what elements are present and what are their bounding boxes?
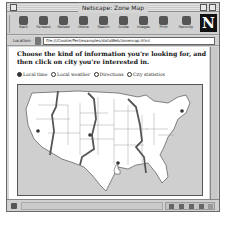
forward-button[interactable]: Forward	[34, 15, 53, 34]
status-text	[21, 202, 163, 210]
forward-label: Forward	[34, 25, 53, 30]
city-marker-mountain[interactable]	[88, 133, 92, 137]
guide-label: Guide	[114, 25, 133, 30]
location-label: Location:	[13, 38, 31, 44]
print-button[interactable]: Print	[154, 15, 173, 34]
radio-label: City statistics	[133, 72, 165, 77]
home-label: Home	[74, 25, 93, 30]
us-zone-map[interactable]	[17, 84, 203, 196]
reload-label: Reload	[54, 25, 73, 30]
radio-local-weather[interactable]: Local weather	[51, 71, 90, 78]
city-marker-east[interactable]	[180, 109, 184, 113]
images-label: Images	[134, 25, 153, 30]
radio-unchecked-icon[interactable]	[94, 72, 99, 77]
radio-checked-icon[interactable]	[17, 72, 22, 77]
home-button[interactable]: Home	[74, 15, 93, 34]
search-label: Search	[94, 25, 113, 30]
close-box-icon[interactable]	[10, 4, 17, 11]
page-proxy-icon[interactable]	[35, 37, 41, 45]
news-icon[interactable]	[189, 204, 194, 209]
navigation-toolbar: Back Forward Reload Home Search Guide Im…	[7, 13, 219, 35]
title-bar[interactable]: Netscape: Zone Map	[7, 3, 219, 12]
zoom-box-icon[interactable]	[200, 4, 207, 11]
radio-unchecked-icon[interactable]	[127, 72, 132, 77]
composer-icon[interactable]	[199, 204, 204, 209]
back-button[interactable]: Back	[14, 15, 33, 34]
security-key-icon[interactable]	[11, 203, 17, 209]
instruction-text: Choose the kind of information you're lo…	[17, 50, 207, 66]
radio-label: Local weather	[57, 72, 90, 77]
radio-directions[interactable]: Directions	[94, 71, 124, 78]
security-label: Security	[174, 25, 198, 30]
location-bar: Location: file:///Cookie/Perl/examples/d…	[7, 36, 219, 46]
images-button[interactable]: Images	[134, 15, 153, 34]
security-lock-icon	[182, 16, 191, 25]
print-label: Print	[154, 25, 173, 30]
radio-unchecked-icon[interactable]	[51, 72, 56, 77]
navigator-icon[interactable]	[169, 204, 174, 209]
search-button[interactable]: Search	[94, 15, 113, 34]
radio-label: Directions	[100, 72, 124, 77]
search-icon	[99, 16, 108, 25]
radio-label: Local time	[23, 72, 47, 77]
guide-button[interactable]: Guide	[114, 15, 133, 34]
mail-icon[interactable]	[179, 204, 184, 209]
url-input[interactable]: file:///Cookie/Perl/examples/dataWeb/zon…	[43, 37, 215, 45]
print-icon	[159, 16, 168, 25]
component-bar	[165, 202, 215, 210]
status-bar	[7, 199, 219, 211]
city-marker-central[interactable]	[116, 161, 120, 165]
reload-button[interactable]: Reload	[54, 15, 73, 34]
collapse-box-icon[interactable]	[209, 4, 216, 11]
info-type-radio-group: Local time Local weather Directions City…	[17, 71, 207, 79]
forward-arrow-icon	[39, 16, 48, 25]
browser-window: Netscape: Zone Map Back Forward Reload H…	[6, 2, 220, 212]
radio-city-statistics[interactable]: City statistics	[127, 71, 165, 78]
city-marker-west[interactable]	[36, 129, 40, 133]
resize-grip-icon[interactable]	[208, 204, 213, 209]
window-title: Netscape: Zone Map	[78, 3, 148, 12]
back-arrow-icon	[19, 16, 28, 25]
reload-icon	[59, 16, 68, 25]
toolbar-collapse-handle[interactable]	[9, 15, 12, 33]
images-icon	[139, 16, 148, 25]
guide-icon	[119, 16, 128, 25]
page-content: Choose the kind of information you're lo…	[9, 47, 209, 199]
home-icon	[79, 16, 88, 25]
netscape-logo[interactable]: N	[200, 14, 217, 32]
radio-local-time[interactable]: Local time	[17, 71, 47, 78]
security-button[interactable]: Security	[174, 15, 198, 34]
us-map-graphic[interactable]	[18, 85, 202, 195]
back-label: Back	[14, 25, 33, 30]
us-outline	[26, 91, 190, 191]
vertical-scrollbar[interactable]	[210, 47, 218, 199]
